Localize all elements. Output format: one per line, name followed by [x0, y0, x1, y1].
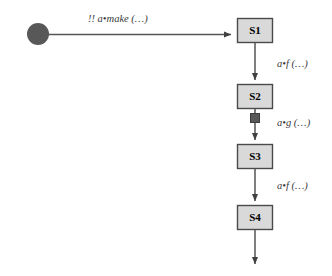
state-node-s1[interactable]: S1 [238, 19, 273, 43]
state-node-s3[interactable]: S3 [238, 145, 273, 169]
state-transition-diagram: !! a•make (…) S1 a•f (…) S2 a•g (…) S3 a… [0, 0, 332, 276]
transition-label-start-to-s1: !! a•make (…) [88, 13, 148, 25]
transition-label-s3-to-s4: a•f (…) [277, 180, 308, 192]
initial-state-dot [27, 23, 49, 45]
transition-label-s2-to-s3: a•g (…) [277, 117, 311, 129]
state-node-s2[interactable]: S2 [238, 85, 273, 109]
state-node-s4[interactable]: S4 [238, 206, 273, 230]
state-label-s2: S2 [249, 90, 261, 102]
state-label-s1: S1 [249, 24, 261, 36]
activation-square-marker [251, 114, 260, 123]
transition-label-s1-to-s2: a•f (…) [277, 58, 308, 70]
state-label-s3: S3 [249, 150, 261, 162]
state-label-s4: S4 [249, 211, 261, 223]
